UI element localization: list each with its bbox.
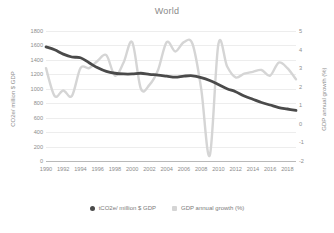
x-axis-tick-label: 1992 <box>57 166 69 172</box>
y-axis-right-tick-label: 0 <box>299 121 302 127</box>
x-axis-tick-label: 1994 <box>74 166 86 172</box>
y-axis-left-tick-label: 1000 <box>31 86 43 92</box>
x-axis-tick-label: 2010 <box>212 166 224 172</box>
y-axis-right-tick-label: 1 <box>299 102 302 108</box>
x-axis-tick-label: 2002 <box>143 166 155 172</box>
legend-label: GDP annual growth (%) <box>181 205 244 211</box>
y-axis-left-tick-label: 800 <box>34 100 43 106</box>
y-axis-left-tick-label: 400 <box>34 129 43 135</box>
y-axis-left-tick-label: 1600 <box>31 42 43 48</box>
legend-item[interactable]: GDP annual growth (%) <box>172 205 244 211</box>
y-axis-left-ticks: 180016001400120010008006004002000 <box>16 31 43 161</box>
y-axis-right-tick-label: 4 <box>299 47 302 53</box>
y-axis-left-tick-label: 1200 <box>31 71 43 77</box>
x-axis-tick-label: 2016 <box>264 166 276 172</box>
legend-square-icon <box>172 206 177 211</box>
y-axis-left-tick-label: 0 <box>40 158 43 164</box>
x-axis-tick-label: 1998 <box>109 166 121 172</box>
x-axis-tick-label: 2004 <box>160 166 172 172</box>
legend-item[interactable]: tCO2e/ million $ GDP <box>90 205 156 211</box>
chart-title: World <box>0 6 334 16</box>
series-line-gdp-growth <box>46 40 296 156</box>
y-axis-left-title: CO2e/ million $ GDP <box>10 64 16 134</box>
x-axis-tick-label: 1996 <box>91 166 103 172</box>
plot-area <box>46 31 296 161</box>
y-axis-left-tick-label: 600 <box>34 115 43 121</box>
x-axis-tick-label: 2018 <box>281 166 293 172</box>
y-axis-right-tick-label: -2 <box>299 158 304 164</box>
y-axis-right-title: GDP annual growth (%) <box>321 60 327 138</box>
y-axis-left-tick-label: 1400 <box>31 57 43 63</box>
y-axis-right-tick-label: 3 <box>299 65 302 71</box>
legend-label: tCO2e/ million $ GDP <box>99 205 156 211</box>
series-line-co2e-intensity <box>46 47 296 111</box>
y-axis-right-tick-label: 2 <box>299 84 302 90</box>
chart-legend: tCO2e/ million $ GDPGDP annual growth (%… <box>0 205 334 211</box>
x-axis-tick-label: 1990 <box>40 166 52 172</box>
y-axis-right-tick-label: 5 <box>299 28 302 34</box>
x-axis-tick-label: 2012 <box>229 166 241 172</box>
y-axis-left-tick-label: 1800 <box>31 28 43 34</box>
series-lines <box>46 31 296 161</box>
chart-container: World 180016001400120010008006004002000 … <box>0 0 334 233</box>
y-axis-right-ticks: 543210-1-2 <box>299 31 319 161</box>
y-axis-right-tick-label: -1 <box>299 139 304 145</box>
x-axis-tick-label: 2008 <box>195 166 207 172</box>
x-axis-tick-label: 2014 <box>247 166 259 172</box>
x-axis-tick-label: 2006 <box>178 166 190 172</box>
x-axis-tick-label: 2000 <box>126 166 138 172</box>
x-axis-line <box>46 161 296 162</box>
x-axis-ticks: 1990199219941996199820002002200420062008… <box>46 166 296 178</box>
y-axis-left-tick-label: 200 <box>34 144 43 150</box>
legend-dot-icon <box>90 206 95 211</box>
